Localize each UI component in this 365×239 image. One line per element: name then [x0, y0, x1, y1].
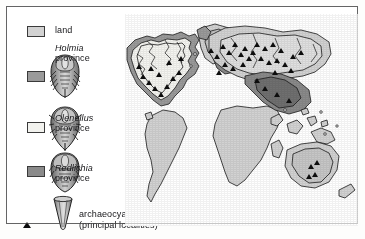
legend-species-redlichia: Redlichia: [55, 163, 93, 173]
archaeocyathid-cup-icon: [49, 195, 77, 233]
legend-province-redlichia: province: [55, 173, 93, 183]
region-se-asia: [271, 108, 335, 144]
figure-frame: land: [6, 6, 358, 224]
legend-swatch-redlichia: [27, 166, 45, 177]
legend-label-land: land: [55, 25, 72, 35]
legend: land: [17, 15, 137, 221]
legend-province-olenellus: province: [55, 123, 93, 133]
world-palaeogeographic-map: [125, 14, 358, 226]
region-eurasia: [209, 26, 331, 114]
legend-swatch-land: [27, 26, 45, 37]
map-svg: [125, 14, 358, 226]
legend-species-holmia: Holmia: [55, 43, 90, 53]
legend-label-olenellus: Olenellus province: [55, 113, 93, 133]
legend-province-holmia: province: [55, 53, 90, 63]
legend-label-redlichia: Redlichia province: [55, 163, 93, 183]
legend-label-holmia: Holmia province: [55, 43, 90, 63]
figure-root: land: [0, 0, 365, 239]
region-south-america: [145, 110, 187, 202]
region-australia: [285, 142, 355, 198]
legend-swatch-olenellus: [27, 122, 45, 133]
locality-triangle-icon: [23, 222, 31, 228]
legend-swatch-holmia: [27, 71, 45, 82]
legend-species-olenellus: Olenellus: [55, 113, 93, 123]
